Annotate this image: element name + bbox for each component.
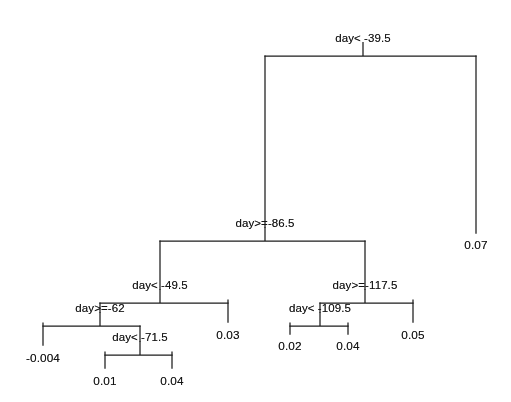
- split-label-n8: day>=-62: [75, 302, 124, 314]
- leaf-label-l_0_04b: 0.04: [336, 339, 359, 353]
- split-label-n17: day< -71.5: [112, 331, 168, 343]
- leaf-label-l_0_04a: 0.04: [160, 374, 183, 388]
- leaf-label-l_m0004: -0.004: [26, 351, 60, 365]
- leaf-label-l_0_01: 0.01: [93, 374, 116, 388]
- leaf-label-l_0_07: 0.07: [464, 238, 487, 252]
- leaf-label-l_0_05: 0.05: [401, 328, 424, 342]
- leaf-label-l_0_03: 0.03: [216, 328, 239, 342]
- split-label-n5: day>=-117.5: [333, 279, 398, 291]
- leaf-label-l_0_02: 0.02: [278, 339, 301, 353]
- decision-tree-figure: day< -39.5day>=-86.5day< -49.5day>=-62da…: [0, 0, 511, 402]
- split-label-root: day< -39.5: [335, 32, 391, 44]
- split-label-n4: day< -49.5: [132, 279, 188, 291]
- split-label-n2: day>=-86.5: [235, 217, 294, 229]
- tree-edges: [0, 0, 511, 402]
- split-label-n10: day< -109.5: [289, 302, 351, 314]
